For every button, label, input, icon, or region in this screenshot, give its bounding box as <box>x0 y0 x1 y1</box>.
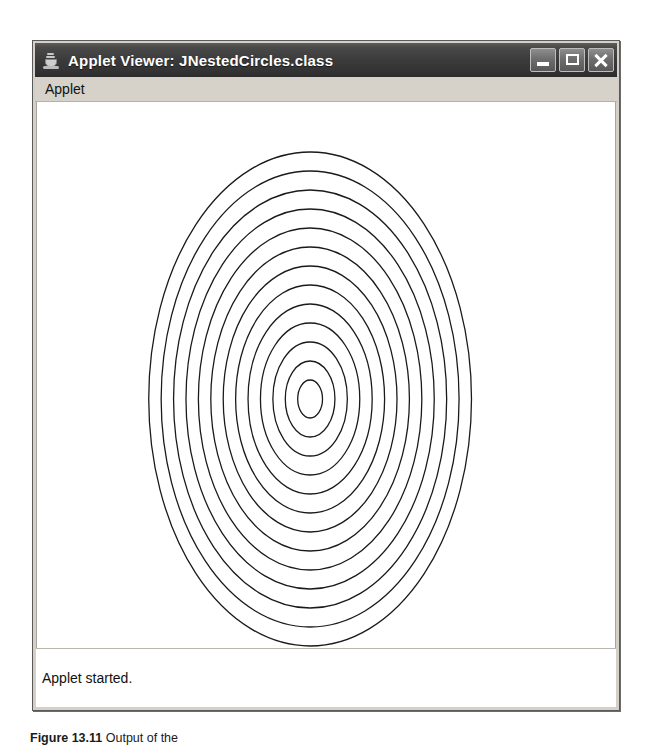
nested-circle <box>236 285 385 513</box>
nested-circle <box>198 228 421 570</box>
applet-viewer-window: Applet Viewer: JNestedCircles.class Appl… <box>32 40 620 711</box>
figure-caption-text: Output of the <box>106 731 178 745</box>
nested-circle <box>248 304 372 494</box>
maximize-button[interactable] <box>559 48 585 72</box>
nested-circle <box>273 342 347 456</box>
figure-caption: Figure 13.11 Output of the <box>30 731 590 745</box>
menu-item-applet[interactable]: Applet <box>35 79 93 99</box>
close-button[interactable] <box>588 48 614 72</box>
nested-circle <box>174 190 447 608</box>
window-title: Applet Viewer: JNestedCircles.class <box>68 52 333 69</box>
nested-circle <box>161 171 459 627</box>
java-coffee-cup-icon <box>41 50 61 70</box>
menu-bar: Applet <box>35 77 617 102</box>
nested-circle <box>260 323 359 475</box>
window-controls <box>530 48 614 72</box>
minimize-button[interactable] <box>530 48 556 72</box>
status-text: Applet started. <box>42 670 132 686</box>
nested-circle <box>298 380 323 418</box>
nested-circle <box>211 247 410 551</box>
nested-circles-drawing <box>37 102 615 648</box>
applet-status-bar: Applet started. <box>36 648 616 707</box>
applet-canvas <box>36 102 616 648</box>
figure-caption-label: Figure 13.11 <box>30 731 102 745</box>
nested-circle <box>149 152 472 646</box>
nested-circle <box>223 266 397 532</box>
window-title-bar[interactable]: Applet Viewer: JNestedCircles.class <box>35 43 617 77</box>
nested-circle <box>285 361 335 437</box>
